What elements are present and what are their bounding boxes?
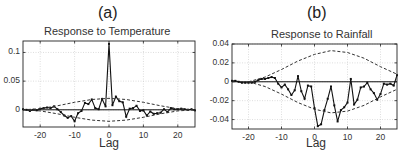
data-marker	[163, 108, 165, 110]
x-tick-label: 10	[340, 132, 356, 142]
data-marker	[139, 110, 141, 112]
data-marker	[122, 101, 124, 103]
y-tick-label: -0.04	[200, 114, 229, 124]
data-marker	[337, 120, 339, 122]
data-marker	[383, 83, 385, 85]
y-tick-label: 0	[0, 104, 20, 114]
data-marker	[366, 82, 368, 84]
data-marker	[129, 108, 131, 110]
data-marker	[320, 123, 322, 125]
data-marker	[274, 77, 276, 79]
data-marker	[271, 76, 273, 78]
y-tick-label: 0.04	[200, 38, 229, 48]
data-marker	[360, 86, 362, 88]
data-marker	[350, 78, 352, 80]
data-marker	[153, 113, 155, 115]
data-marker	[94, 107, 96, 109]
x-tick-label: -20	[241, 132, 257, 142]
data-marker	[393, 85, 395, 87]
data-marker	[80, 110, 82, 112]
data-marker	[173, 108, 175, 110]
data-marker	[290, 94, 292, 96]
data-marker	[46, 107, 48, 109]
data-marker	[160, 112, 162, 114]
data-marker	[74, 120, 76, 122]
data-marker	[347, 102, 349, 104]
data-marker	[330, 86, 332, 88]
x-tick-label: -10	[274, 132, 290, 142]
data-marker	[277, 83, 279, 85]
data-marker	[67, 117, 69, 119]
data-marker	[125, 116, 127, 118]
data-marker	[287, 88, 289, 90]
data-marker	[77, 112, 79, 114]
x-tick-label: -10	[67, 130, 83, 140]
data-marker	[300, 90, 302, 92]
y-tick-label: 0.05	[0, 75, 20, 85]
y-tick-label: 0	[200, 76, 229, 86]
data-marker	[98, 108, 100, 110]
confidence-bound-b	[249, 82, 398, 113]
data-marker	[333, 104, 335, 106]
y-tick-label: -0.02	[200, 95, 229, 105]
data-marker	[281, 86, 283, 88]
data-marker	[294, 89, 296, 91]
data-marker	[370, 88, 372, 90]
data-marker	[363, 86, 365, 88]
data-marker	[60, 111, 62, 113]
data-marker	[297, 75, 299, 77]
data-marker	[343, 106, 345, 108]
data-marker	[327, 98, 329, 100]
data-marker	[284, 84, 286, 86]
data-marker	[389, 83, 391, 85]
y-tick-label: 0.1	[0, 46, 20, 56]
x-tick-label: 10	[135, 130, 151, 140]
data-marker	[105, 105, 107, 107]
x-tick-label: 0	[307, 132, 323, 142]
data-marker	[304, 98, 306, 100]
data-marker	[115, 96, 117, 98]
data-marker	[386, 84, 388, 86]
data-marker	[353, 103, 355, 105]
x-tick-label: -20	[32, 130, 48, 140]
data-marker	[36, 109, 38, 111]
data-marker	[111, 104, 113, 106]
data-marker	[234, 80, 236, 82]
data-marker	[264, 78, 266, 80]
x-tick-label: 20	[373, 132, 389, 142]
x-tick-label: 0	[101, 130, 117, 140]
data-marker	[254, 81, 256, 83]
data-marker	[136, 105, 138, 107]
data-marker	[84, 102, 86, 104]
data-marker	[142, 109, 144, 111]
data-marker	[380, 93, 382, 95]
data-marker	[149, 111, 151, 113]
data-marker	[307, 85, 309, 87]
data-marker	[241, 82, 243, 84]
data-marker	[310, 86, 312, 88]
data-marker	[118, 100, 120, 102]
data-marker	[56, 108, 58, 110]
x-tick-label: 20	[170, 130, 186, 140]
data-marker	[356, 99, 358, 101]
data-marker	[244, 82, 246, 84]
data-marker	[132, 107, 134, 109]
data-marker	[373, 92, 375, 94]
data-marker	[238, 81, 240, 83]
data-marker	[317, 125, 319, 127]
data-marker	[87, 103, 89, 105]
data-marker	[340, 109, 342, 111]
y-tick-label: 0.02	[200, 57, 229, 67]
data-marker	[267, 77, 269, 79]
